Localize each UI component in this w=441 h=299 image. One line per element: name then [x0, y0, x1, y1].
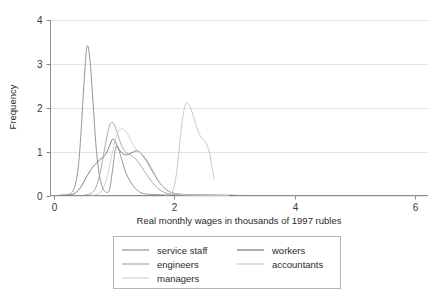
legend-label-managers: managers	[157, 273, 199, 284]
legend-label-service-staff: service staff	[157, 245, 208, 256]
legend-label-accountants: accountants	[272, 259, 323, 270]
y-axis-title: Frequency	[7, 84, 18, 129]
x-tick-label: 2	[172, 202, 178, 213]
y-tick-label: 4	[37, 15, 43, 26]
kernel-density-chart: 01234 0246 Frequency Real monthly wages …	[0, 0, 441, 299]
y-tick-label: 3	[37, 59, 43, 70]
x-tick-label: 4	[293, 202, 299, 213]
y-tick-label: 1	[37, 147, 43, 158]
legend-label-workers: workers	[271, 245, 306, 256]
x-axis-title: Real monthly wages in thousands of 1997 …	[137, 215, 342, 226]
x-tick-label: 6	[413, 202, 419, 213]
y-tick-label: 0	[37, 191, 43, 202]
chart-figure: 01234 0246 Frequency Real monthly wages …	[0, 0, 441, 299]
legend-label-engineers: engineers	[157, 259, 199, 270]
x-tick-label: 0	[52, 202, 58, 213]
y-tick-label: 2	[37, 103, 43, 114]
